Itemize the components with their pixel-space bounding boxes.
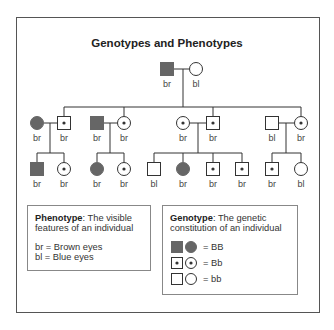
carrier-dot-icon — [299, 121, 302, 124]
carrier-dot-icon — [211, 121, 214, 124]
phenotype-label: bl — [268, 133, 275, 143]
carrier-dot-icon — [270, 167, 273, 170]
homozygous-dominant-symbols-icon — [170, 240, 200, 254]
genotype-heading: Genotype — [170, 213, 213, 223]
pedigree-individual: br — [91, 117, 104, 144]
phenotype-label: br — [268, 179, 276, 189]
female-BB-symbol-icon — [186, 242, 197, 253]
carrier-dot-icon — [62, 121, 65, 124]
pedigree-individual: bl — [266, 117, 279, 144]
pedigree-individual: br — [31, 163, 44, 190]
male-BB-symbol-icon — [161, 63, 174, 76]
genotype-key-label: = bb — [203, 274, 221, 284]
male-BB-symbol-icon — [91, 117, 104, 130]
phenotype-label: br — [60, 133, 68, 143]
carrier-dot-icon — [175, 261, 178, 264]
carrier-dot-icon — [62, 167, 65, 170]
phenotype-label: br — [209, 133, 217, 143]
female-BB-symbol-icon — [31, 117, 44, 130]
phenotype-label: br — [209, 179, 217, 189]
generation-3: brbrbrbrblbrbrbrbrbl — [31, 163, 308, 190]
genotype-key-heterozygous: = Bb — [170, 255, 297, 271]
pedigree-individual: br — [31, 117, 44, 144]
pedigree-individual: bl — [148, 163, 161, 190]
phenotype-label: br — [33, 179, 41, 189]
female-bb-symbol-icon — [295, 163, 308, 176]
pedigree-individual: br — [295, 117, 308, 144]
carrier-dot-icon — [189, 261, 192, 264]
phenotype-label: br — [179, 133, 187, 143]
carrier-dot-icon — [181, 121, 184, 124]
phenotype-label: bl — [192, 79, 199, 89]
genotype-key-label: = Bb — [203, 258, 222, 268]
female-BB-symbol-icon — [91, 163, 104, 176]
pedigree-individual: br — [266, 163, 279, 190]
pedigree-individual: br — [91, 163, 104, 190]
pedigree-individual: br — [177, 117, 190, 144]
phenotype-key-brown: br = Brown eyes — [35, 242, 150, 252]
phenotype-label: br — [120, 133, 128, 143]
pedigree-individual: br — [207, 117, 220, 144]
male-bb-symbol-icon — [172, 274, 183, 285]
pedigree-individual: br — [207, 163, 220, 190]
male-bb-symbol-icon — [266, 117, 279, 130]
pedigree-individual: br — [58, 163, 71, 190]
pedigree-individual: br — [118, 163, 131, 190]
pedigree-individual: br — [118, 117, 131, 144]
phenotype-label: br — [33, 133, 41, 143]
phenotype-label: br — [93, 133, 101, 143]
phenotype-label: br — [163, 79, 171, 89]
phenotype-legend-box: Phenotype: The visible features of an in… — [27, 205, 151, 271]
pedigree-individual: br — [177, 163, 190, 190]
genotype-definition: Genotype: The genetic constitution of an… — [170, 213, 297, 233]
phenotype-label: br — [120, 179, 128, 189]
male-bb-symbol-icon — [148, 163, 161, 176]
genotype-key-homozygous-dominant: = BB — [170, 239, 297, 255]
phenotype-label: br — [238, 179, 246, 189]
female-BB-symbol-icon — [177, 163, 190, 176]
carrier-dot-icon — [122, 167, 125, 170]
phenotype-label: br — [93, 179, 101, 189]
pedigree-individual: br — [58, 117, 71, 144]
phenotype-definition: Phenotype: The visible features of an in… — [35, 213, 150, 233]
homozygous-recessive-symbols-icon — [170, 272, 200, 286]
phenotype-label: br — [297, 133, 305, 143]
female-bb-symbol-icon — [190, 63, 203, 76]
genotype-legend-box: Genotype: The genetic constitution of an… — [162, 205, 298, 295]
genotype-key-homozygous-recessive: = bb — [170, 271, 297, 287]
phenotype-label: bl — [297, 179, 304, 189]
male-BB-symbol-icon — [172, 242, 183, 253]
phenotype-label: br — [60, 179, 68, 189]
female-bb-symbol-icon — [186, 274, 197, 285]
carrier-dot-icon — [240, 167, 243, 170]
generation-2: brbrbrbrbrbrblbr — [31, 117, 308, 144]
phenotype-label: bl — [150, 179, 157, 189]
generation-1: brbl — [161, 63, 203, 90]
phenotype-heading: Phenotype — [35, 213, 83, 223]
carrier-dot-icon — [211, 167, 214, 170]
phenotype-label: br — [179, 179, 187, 189]
pedigree-individual: br — [161, 63, 174, 90]
male-BB-symbol-icon — [31, 163, 44, 176]
pedigree-individual: bl — [295, 163, 308, 190]
heterozygous-symbols-icon — [170, 256, 200, 270]
phenotype-key-blue: bl = Blue eyes — [35, 252, 150, 262]
genotype-key-label: = BB — [203, 242, 223, 252]
carrier-dot-icon — [122, 121, 125, 124]
pedigree-individual: bl — [190, 63, 203, 90]
pedigree-individual: br — [236, 163, 249, 190]
